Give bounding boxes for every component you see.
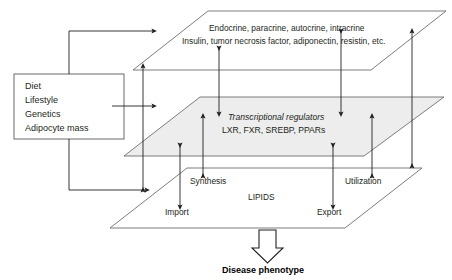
input-item-adipocyte-mass: Adipocyte mass [25, 122, 89, 135]
connector-inputs-to-bottom [69, 139, 147, 190]
plane-middle-line1: Transcriptional regulators [228, 112, 324, 122]
plane-bottom-label-lipids: LIPIDS [248, 193, 275, 203]
process-label-export: Export [317, 208, 341, 218]
plane-top-line1: Endocrine, paracrine, autocrine, intracr… [209, 24, 365, 34]
process-label-utilization: Utilization [345, 177, 381, 187]
plane-middle-line2: LXR, FXR, SREBP, PPARs [222, 125, 325, 135]
disease-phenotype-block-arrow [252, 230, 283, 263]
input-item-lifestyle: Lifestyle [25, 94, 58, 107]
diagram-canvas: Endocrine, paracrine, autocrine, intracr… [0, 0, 452, 280]
plane-top-line2: Insulin, tumor necrosis factor, adiponec… [182, 37, 385, 47]
input-item-genetics: Genetics [25, 108, 61, 121]
process-label-import: Import [165, 208, 189, 218]
input-item-diet: Diet [25, 80, 41, 93]
disease-phenotype-label: Disease phenotype [222, 265, 304, 276]
process-label-synthesis: Synthesis [190, 177, 226, 187]
